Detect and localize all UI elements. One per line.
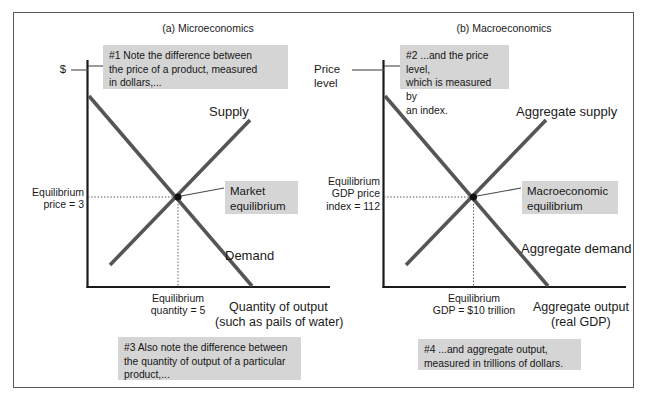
macro-callout-top: #2 ...and the price level, which is meas… [400, 45, 509, 89]
economics-figure: (a) Microeconomics $ #1 Note the differe… [0, 0, 648, 403]
macro-x-axis-name-line1: Aggregate output [533, 300, 629, 315]
macro-equilibrium-output-label: Equilibrium GDP = $10 trillion [406, 292, 542, 317]
micro-demand-label: Demand [225, 248, 274, 263]
micro-y-axis-label: $ [56, 63, 70, 77]
micro-x-axis-name-line1: Quantity of output [229, 300, 328, 315]
macro-demand-label: Aggregate demand [521, 241, 632, 256]
macro-panel-title: (b) Macroeconomics [384, 22, 624, 34]
micro-callout-top: #1 Note the difference between the price… [103, 45, 288, 89]
macro-supply-label: Aggregate supply [516, 104, 617, 119]
macro-equilibrium-price-label: Equilibrium GDP price index = 112 [300, 175, 380, 212]
micro-panel-title: (a) Microeconomics [88, 22, 328, 34]
micro-supply-label: Supply [209, 104, 249, 119]
micro-equilibrium-quantity-label: Equilibrium quantity = 5 [128, 292, 228, 317]
micro-equilibrium-price-label: Equilibrium price = 3 [8, 186, 84, 211]
micro-x-axis-name-line2: (such as pails of water) [215, 315, 344, 330]
macro-x-axis-name-line2: (real GDP) [551, 315, 611, 330]
micro-callout-bottom: #3 Also note the difference between the … [118, 337, 301, 380]
macro-callout-bottom: #4 ...and aggregate output, measured in … [418, 339, 581, 370]
macro-y-axis-label: Price level [314, 63, 354, 90]
micro-equilibrium-point-label: Market equilibrium [225, 181, 298, 214]
macro-equilibrium-point-label: Macroeconomic equilibrium [522, 181, 618, 214]
